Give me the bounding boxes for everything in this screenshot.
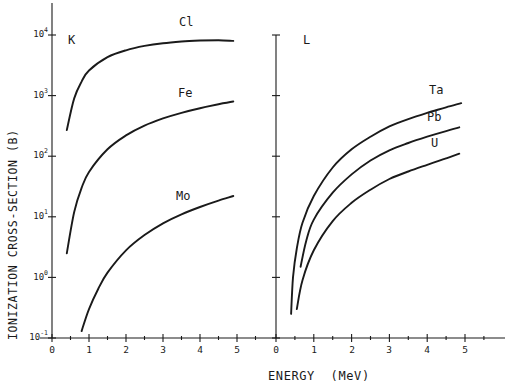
curve-label-fe: Fe (178, 86, 192, 100)
x-tick-label: 2 (120, 344, 132, 355)
x-tick-label: 5 (459, 344, 471, 355)
y-tick-label: 101 (14, 209, 48, 221)
x-tick-label: 1 (83, 344, 95, 355)
x-tick-label: 5 (231, 344, 243, 355)
y-tick-label: 10-1 (14, 330, 48, 342)
x-axis-label: ENERGY (MeV) (268, 369, 370, 383)
x-tick-label: 4 (421, 344, 433, 355)
curve-cl (67, 40, 234, 130)
x-tick-label: 3 (157, 344, 169, 355)
y-tick-label: 104 (14, 27, 48, 39)
curve-u (297, 154, 460, 309)
chart-canvas (0, 0, 505, 389)
x-tick-label: 3 (383, 344, 395, 355)
curve-label-u: U (431, 136, 438, 150)
curve-label-pb: Pb (427, 110, 441, 124)
x-tick-label: 1 (308, 344, 320, 355)
y-tick-label: 102 (14, 148, 48, 160)
y-tick-label: 100 (14, 270, 48, 282)
curve-label-mo: Mo (176, 189, 190, 203)
x-tick-label: 4 (194, 344, 206, 355)
curve-label-cl: Cl (179, 15, 193, 29)
x-tick-label: 0 (46, 344, 58, 355)
x-tick-label: 0 (270, 344, 282, 355)
curve-mo (82, 196, 234, 331)
y-tick-label: 103 (14, 88, 48, 100)
y-axis-label: IONIZATION CROSS-SECTION (B) (6, 129, 20, 340)
panel-label-k: K (68, 33, 75, 47)
x-tick-label: 2 (346, 344, 358, 355)
curve-label-ta: Ta (429, 83, 443, 97)
panel-label-l: L (303, 33, 310, 47)
